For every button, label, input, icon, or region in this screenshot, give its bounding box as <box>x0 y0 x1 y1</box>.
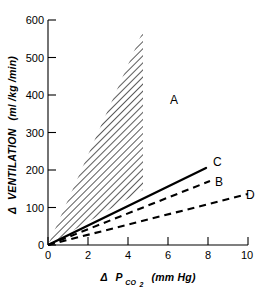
chart-figure: 600 500 400 300 200 100 0 0 2 4 6 8 10 <box>0 0 259 293</box>
x-tick-label-2: 2 <box>85 249 91 261</box>
x-tick-label-8: 8 <box>205 249 211 261</box>
y-tick-label-100: 100 <box>26 202 44 214</box>
x-axis-subscript: CO <box>125 279 136 286</box>
x-axis-symbol: P <box>115 271 123 283</box>
x-axis: 0 2 4 6 8 10 <box>45 237 253 261</box>
y-axis-title: Δ VENTILATION (ml /kg /min) <box>6 56 18 215</box>
svg-text:Δ P CO: Δ P CO 2 (mm Hg) <box>99 271 195 289</box>
series-a-label: A <box>170 93 178 107</box>
svg-text:Δ VENTILATION: Δ VENTILATION (ml /kg /min) <box>6 56 18 215</box>
x-tick-label-6: 6 <box>165 249 171 261</box>
y-axis-delta: Δ <box>6 207 18 215</box>
x-tick-label-10: 10 <box>241 249 253 261</box>
ventilation-co2-response-chart: 600 500 400 300 200 100 0 0 2 4 6 8 10 <box>0 0 259 293</box>
x-tick-label-4: 4 <box>125 249 131 261</box>
y-tick-label-200: 200 <box>26 164 44 176</box>
x-axis-units: (mm Hg) <box>152 271 196 283</box>
x-tick-label-0: 0 <box>45 249 51 261</box>
y-tick-label-400: 400 <box>26 89 44 101</box>
y-tick-label-0: 0 <box>38 239 44 251</box>
y-axis: 600 500 400 300 200 100 0 <box>26 14 56 251</box>
y-tick-label-600: 600 <box>26 14 44 26</box>
y-axis-units: (ml /kg /min) <box>6 56 18 121</box>
series-d-label: D <box>246 188 255 202</box>
x-axis-subscript-number: 2 <box>138 281 143 288</box>
x-axis-title: Δ P CO 2 (mm Hg) <box>99 271 195 289</box>
y-axis-name: VENTILATION <box>6 128 18 200</box>
x-axis-delta: Δ <box>99 271 107 283</box>
series-b-label: B <box>215 175 223 189</box>
y-tick-label-500: 500 <box>26 52 44 64</box>
y-tick-label-300: 300 <box>26 127 44 139</box>
series-c-label: C <box>213 155 222 169</box>
